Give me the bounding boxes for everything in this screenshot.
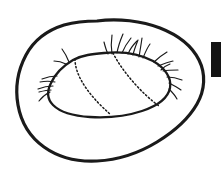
scale-bar: [211, 42, 221, 77]
inner-contour-path: [48, 52, 170, 117]
line-drawing-canvas: [0, 0, 221, 176]
figure-root: Specimen outline drawing outer body wall…: [0, 0, 221, 176]
